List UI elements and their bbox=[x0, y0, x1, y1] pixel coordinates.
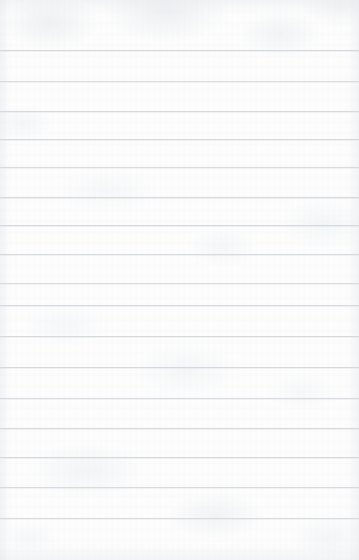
writing-area[interactable] bbox=[0, 0, 359, 560]
ruled-paper-sheet bbox=[0, 0, 359, 560]
